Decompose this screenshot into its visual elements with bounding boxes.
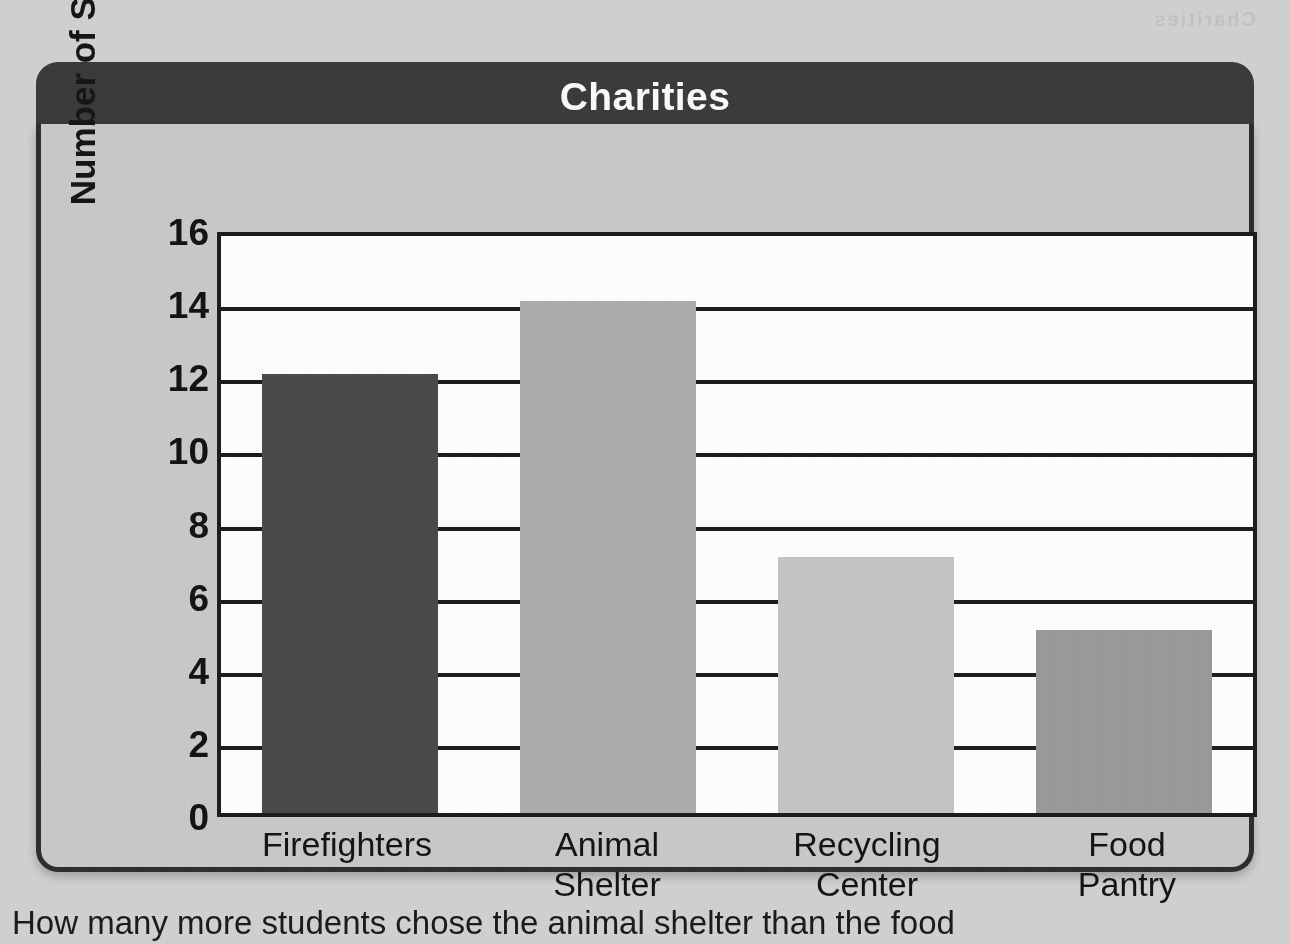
x-label-line1: Recycling — [793, 825, 940, 863]
x-label-0: Firefighters — [217, 824, 477, 904]
chart-card: Charities Number of Students 16141210864… — [36, 62, 1254, 872]
x-label-line1: Firefighters — [262, 825, 432, 863]
bars-group — [221, 236, 1253, 813]
x-label-line1: Food — [1088, 825, 1166, 863]
y-axis-tick-labels: 1614121086420 — [133, 232, 209, 817]
x-label-line2: Pantry — [997, 864, 1257, 904]
x-label-3: FoodPantry — [997, 824, 1257, 904]
x-label-line1: Animal — [555, 825, 659, 863]
x-label-1: AnimalShelter — [477, 824, 737, 904]
bar-recycling-center — [778, 557, 953, 813]
bar-slot-0 — [221, 236, 479, 813]
y-tick-label-12: 12 — [133, 360, 209, 397]
card-header: Charities — [36, 62, 1254, 128]
caption-line: How many more students chose the animal … — [12, 906, 1112, 939]
card-body: Number of Students 1614121086420 Firefig… — [36, 124, 1254, 872]
y-tick-label-16: 16 — [133, 214, 209, 251]
x-label-line2: Center — [737, 864, 997, 904]
y-tick-label-2: 2 — [133, 725, 209, 762]
y-tick-label-6: 6 — [133, 579, 209, 616]
chart-title: Charities — [560, 77, 731, 116]
y-axis-title: Number of Students — [61, 0, 105, 318]
y-tick-label-0: 0 — [133, 799, 209, 836]
caption-text-cutoff: How many more students chose the animal … — [12, 906, 1112, 944]
bar-slot-1 — [479, 236, 737, 813]
y-tick-label-14: 14 — [133, 287, 209, 324]
plot-area — [217, 232, 1257, 817]
bar-firefighters — [262, 374, 437, 813]
y-tick-label-4: 4 — [133, 652, 209, 689]
bar-food-pantry — [1036, 630, 1211, 813]
y-tick-label-8: 8 — [133, 506, 209, 543]
x-label-line2: Shelter — [477, 864, 737, 904]
reverse-side-bleed-text: Charities — [956, 8, 1256, 34]
x-axis-category-labels: FirefightersAnimalShelterRecyclingCenter… — [217, 824, 1257, 904]
x-label-2: RecyclingCenter — [737, 824, 997, 904]
bar-animal-shelter — [520, 301, 695, 813]
y-tick-label-10: 10 — [133, 433, 209, 470]
bar-slot-3 — [995, 236, 1253, 813]
bar-slot-2 — [737, 236, 995, 813]
